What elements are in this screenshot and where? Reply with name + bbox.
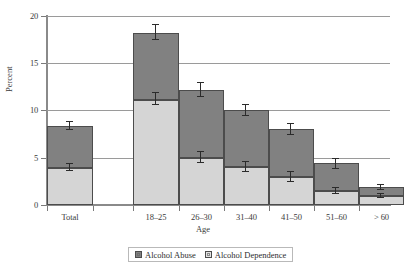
error-cap-31-40-dependence-top [242, 161, 249, 162]
bar-41-50-abuse[interactable] [269, 129, 314, 177]
bar-total-abuse[interactable] [47, 126, 93, 168]
error-cap-26-30-dependence-bottom [197, 162, 204, 163]
error-cap-18-25-dependence-top [152, 92, 159, 93]
x-tick-mark-7 [359, 206, 360, 211]
bar-51-60[interactable] [314, 163, 359, 205]
error-cap-51-60-dependence-bottom [332, 193, 339, 194]
legend-item-alcohol-dependence[interactable]: Alcohol Dependence [205, 250, 287, 260]
x-tick-mark-0 [47, 206, 48, 211]
bar-26-30-abuse[interactable] [179, 90, 224, 158]
y-tick-label-0: 0 [22, 200, 38, 210]
plot-area [47, 16, 390, 205]
y-tick-label-5: 5 [22, 153, 38, 163]
error-cap-total-abuse-top [66, 121, 73, 122]
error-cap-26-30-dependence-top [197, 151, 204, 152]
bar-18-25[interactable] [133, 33, 179, 205]
dark-swatch-icon [135, 251, 142, 258]
x-tick-mark-2 [133, 206, 134, 211]
bar-26-30-dependence[interactable] [179, 158, 224, 205]
bar-total-dependence[interactable] [47, 168, 93, 205]
error-cap-18-25-dependence-bottom [152, 104, 159, 105]
error-cap-total-dependence-bottom [66, 170, 73, 171]
error-cap-over-60-dependence-top [377, 193, 384, 194]
error-cap-41-50-abuse-top [287, 123, 294, 124]
legend-label-alcohol-dependence: Alcohol Dependence [215, 250, 287, 260]
gridline-15 [47, 63, 390, 64]
bar-total[interactable] [47, 126, 93, 205]
error-cap-over-60-dependence-bottom [377, 197, 384, 198]
error-cap-over-60-abuse-top [377, 184, 384, 185]
error-cap-18-25-abuse-bottom [152, 39, 159, 40]
error-cap-51-60-abuse-top [332, 158, 339, 159]
bar-31-40-dependence[interactable] [224, 167, 269, 205]
x-tick-label-41-50: 41–50 [269, 212, 314, 222]
x-tick-label-total: Total [47, 212, 93, 222]
bar-31-40[interactable] [224, 110, 269, 205]
x-tick-mark-6 [314, 206, 315, 211]
gridline-20 [47, 16, 390, 17]
bar-41-50[interactable] [269, 129, 314, 205]
legend-item-alcohol-abuse[interactable]: Alcohol Abuse [135, 250, 196, 260]
y-axis-title-text: Percent [4, 67, 14, 93]
y-tick-label-20: 20 [22, 11, 38, 21]
bar-over-60[interactable] [359, 187, 404, 205]
error-cap-31-40-abuse-top [242, 104, 249, 105]
error-cap-26-30-abuse-bottom [197, 96, 204, 97]
x-tick-mark-5 [269, 206, 270, 211]
error-cap-total-dependence-top [66, 163, 73, 164]
x-tick-label-51-60: 51–60 [314, 212, 359, 222]
bar-26-30[interactable] [179, 90, 224, 205]
light-swatch-icon [205, 251, 212, 258]
error-cap-51-60-dependence-top [332, 187, 339, 188]
error-cap-41-50-dependence-bottom [287, 181, 294, 182]
error-cap-18-25-abuse-top [152, 24, 159, 25]
x-tick-label-18-25: 18–25 [133, 212, 179, 222]
error-cap-51-60-abuse-bottom [332, 168, 339, 169]
error-bar-18-25-abuse [155, 25, 156, 40]
error-cap-31-40-dependence-bottom [242, 171, 249, 172]
error-cap-over-60-abuse-bottom [377, 189, 384, 190]
x-tick-label-over-60: > 60 [359, 212, 404, 222]
error-cap-total-abuse-bottom [66, 129, 73, 130]
chart-legend: Alcohol Abuse Alcohol Dependence [128, 247, 293, 262]
bar-31-40-abuse[interactable] [224, 110, 269, 167]
error-bar-26-30-abuse [200, 83, 201, 97]
error-cap-41-50-abuse-bottom [287, 134, 294, 135]
legend-label-alcohol-abuse: Alcohol Abuse [145, 250, 196, 260]
x-axis-title: Age [0, 224, 406, 234]
x-tick-mark-4 [224, 206, 225, 211]
chart-figure: Percent 20 15 10 5 0 [0, 0, 406, 270]
y-axis-title: Percent [4, 67, 14, 93]
x-tick-mark-1 [93, 206, 94, 211]
bar-18-25-abuse[interactable] [133, 33, 179, 100]
x-tick-label-31-40: 31–40 [224, 212, 269, 222]
x-tick-label-26-30: 26–30 [179, 212, 224, 222]
error-cap-41-50-dependence-top [287, 171, 294, 172]
error-cap-26-30-abuse-top [197, 82, 204, 83]
bar-18-25-dependence[interactable] [133, 100, 179, 205]
x-tick-mark-3 [179, 206, 180, 211]
y-tick-label-10: 10 [22, 105, 38, 115]
y-tick-label-15: 15 [22, 58, 38, 68]
error-cap-31-40-abuse-bottom [242, 115, 249, 116]
